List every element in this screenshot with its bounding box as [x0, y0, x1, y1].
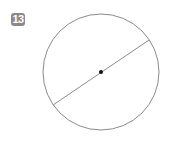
circle-diagram	[0, 0, 169, 141]
center-point	[99, 70, 103, 74]
